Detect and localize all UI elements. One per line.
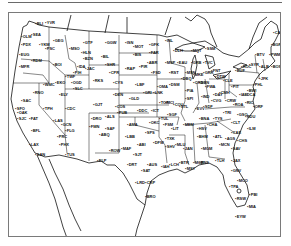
station-label: ICT xyxy=(151,109,159,113)
canada-line-2 xyxy=(105,15,109,33)
station-label: CRW xyxy=(225,99,236,103)
station-label: PBI xyxy=(249,193,257,197)
baja-coast xyxy=(37,155,67,237)
station-label: CLT xyxy=(231,121,240,125)
station-label: INL xyxy=(165,39,173,43)
station-label: SAN xyxy=(35,153,45,157)
station-label: ALB xyxy=(259,65,269,69)
hudson-bay xyxy=(185,15,217,47)
station-label: BFL xyxy=(31,129,40,133)
station-label: CLE xyxy=(223,79,233,83)
station-label: MSP xyxy=(165,61,175,65)
station-label: TPA xyxy=(229,185,238,189)
station-label: GLD xyxy=(129,97,139,101)
station-label: SAV xyxy=(231,147,240,151)
station-label: MOT xyxy=(133,45,143,49)
station-label: TLH xyxy=(215,159,224,163)
station-label: BOS xyxy=(271,65,281,69)
station-label: DAY xyxy=(213,93,223,97)
station-label: FNT xyxy=(211,69,220,73)
station-label: BTV xyxy=(255,53,265,57)
station-label: RSW xyxy=(235,197,246,201)
station-label: WMC xyxy=(43,83,55,87)
station-label: DLH xyxy=(173,49,183,53)
station-label: GGW xyxy=(105,41,117,45)
station-label: FSM xyxy=(163,123,173,127)
station-label: LBF xyxy=(135,83,144,87)
station-label: ELP xyxy=(97,159,106,163)
canada-line-4 xyxy=(165,17,171,35)
station-label: BNA xyxy=(199,117,209,121)
station-label: CHA xyxy=(207,123,217,127)
station-label: SJC xyxy=(17,117,26,121)
station-label: CAR xyxy=(273,31,281,35)
station-label: OKC xyxy=(149,121,159,125)
station-label: PIR xyxy=(139,65,147,69)
gulf-coast-mexico xyxy=(135,205,145,237)
station-label: OAK xyxy=(17,111,27,115)
station-label: OGD xyxy=(71,81,82,85)
station-label: GNV xyxy=(231,169,241,173)
station-label: EYW xyxy=(235,215,246,219)
station-label: SAC xyxy=(21,99,31,103)
station-label: SAT xyxy=(141,169,150,173)
station-label: SPI xyxy=(185,97,193,101)
station-label: FAR xyxy=(149,51,159,55)
station-label: MIA xyxy=(247,205,256,209)
station-label: BHM xyxy=(197,135,208,139)
station-label: CRP xyxy=(145,181,155,185)
station-label: GJT xyxy=(93,103,102,107)
station-label: COU xyxy=(173,103,183,107)
station-label: TRI xyxy=(223,111,231,115)
station-label: PHL xyxy=(253,83,263,87)
station-label: ROW xyxy=(109,149,120,153)
station-label: ALS xyxy=(105,115,115,119)
station-label: ILM xyxy=(247,127,255,131)
station-label: FWA xyxy=(205,85,215,89)
station-label: TUS xyxy=(65,153,75,157)
station-label: MGM xyxy=(201,147,212,151)
station-label: AGS xyxy=(225,137,235,141)
station-label: HSV xyxy=(197,127,207,131)
station-label: PWM xyxy=(269,53,280,57)
station-label: RKS xyxy=(93,79,103,83)
station-label: LCH xyxy=(169,163,179,167)
station-label: SSM xyxy=(205,47,215,51)
station-label: LNK xyxy=(153,91,163,95)
station-label: PRC xyxy=(57,135,67,139)
top-rule xyxy=(8,2,282,3)
station-label: MFR xyxy=(19,65,29,69)
station-label: SPS xyxy=(145,131,155,135)
station-label: BUF xyxy=(235,69,245,73)
station-label: DRT xyxy=(127,163,137,167)
station-label: GCN xyxy=(61,123,71,127)
station-label: SYR xyxy=(249,63,259,67)
station-label: GEG xyxy=(53,39,63,43)
station-label: LBB xyxy=(125,135,135,139)
station-label: BZN xyxy=(83,57,93,61)
station-label: IAD xyxy=(239,93,247,97)
station-label: GTF xyxy=(83,41,93,45)
station-label: MSY xyxy=(185,167,195,171)
station-label: FAT xyxy=(29,117,38,121)
station-label: BOI xyxy=(53,63,62,67)
station-label: SEA xyxy=(31,33,41,37)
station-label: PSC xyxy=(45,47,55,51)
station-label: ROA xyxy=(233,103,243,107)
station-label: PIA xyxy=(185,89,193,93)
station-label: PIT xyxy=(231,85,239,89)
station-label: PNS xyxy=(199,161,209,165)
station-label: BLI xyxy=(35,22,43,26)
station-label: JAN xyxy=(183,147,193,151)
station-label: FMN xyxy=(89,125,99,129)
station-label: BIL xyxy=(101,55,109,59)
station-label: YVR xyxy=(45,21,55,25)
station-label: GFK xyxy=(149,43,159,47)
station-label: RST xyxy=(169,71,179,75)
station-label: COS xyxy=(115,105,125,109)
station-label: AUS xyxy=(147,163,157,167)
station-label: BTR xyxy=(179,161,189,165)
station-label: RDU xyxy=(245,115,255,119)
station-label: RNO xyxy=(33,91,43,95)
station-label: MEM xyxy=(183,123,194,127)
